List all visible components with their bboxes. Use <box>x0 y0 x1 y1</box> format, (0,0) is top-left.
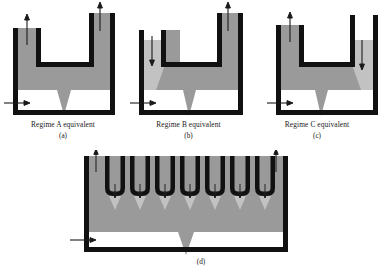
panel-b-caption: Regime B equivalent <box>126 120 251 129</box>
panel-c-caption: Regime C equivalent <box>251 120 383 129</box>
panel-d-fill <box>89 156 283 255</box>
panel-b <box>126 0 251 120</box>
figure-four-panel-regime-diagram: Regime A equivalent Regime B equivalent … <box>0 0 383 279</box>
panel-d-label: (d) <box>62 258 340 266</box>
panel-a-label: (a) <box>0 132 126 140</box>
panel-a <box>0 0 126 120</box>
inlet-arrow <box>70 238 96 243</box>
panel-a-caption: Regime A equivalent <box>0 120 126 129</box>
panel-d <box>62 150 340 258</box>
panel-c <box>251 0 383 120</box>
panel-c-fill <box>281 25 373 116</box>
panel-c-label: (c) <box>251 132 383 140</box>
panel-b-label: (b) <box>126 132 251 140</box>
